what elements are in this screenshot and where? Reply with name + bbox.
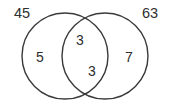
venn-diagram-canvas: 45 63 5 3 3 7 bbox=[0, 0, 169, 108]
intersection-bottom-value: 3 bbox=[88, 63, 96, 79]
left-set-label: 45 bbox=[14, 5, 30, 21]
venn-diagram-figure: 45 63 5 3 3 7 bbox=[0, 0, 169, 108]
left-only-region-value: 5 bbox=[36, 49, 44, 65]
right-set-circle bbox=[62, 13, 148, 99]
intersection-top-value: 3 bbox=[76, 32, 84, 48]
right-only-region-value: 7 bbox=[125, 49, 133, 65]
left-set-circle bbox=[22, 13, 108, 99]
right-set-label: 63 bbox=[142, 5, 158, 21]
